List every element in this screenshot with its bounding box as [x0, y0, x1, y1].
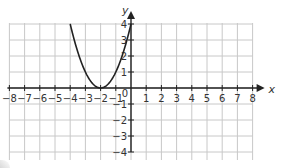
x-tick-label: −8 — [2, 93, 17, 104]
axes — [7, 11, 264, 152]
y-tick-label: 4 — [121, 19, 127, 30]
parabola-chart: −8−7−6−5−4−3−2−1123456784321−1−2−3−4 x y… — [0, 0, 281, 168]
y-axis-label: y — [121, 4, 129, 17]
x-tick-label: −7 — [17, 93, 32, 104]
x-tick-label: 2 — [158, 93, 164, 104]
x-tick-label: 3 — [173, 93, 179, 104]
y-tick-label: −3 — [112, 131, 127, 142]
x-tick-label: −4 — [63, 93, 78, 104]
y-tick-label: −2 — [112, 115, 127, 126]
x-tick-label: 5 — [204, 93, 210, 104]
y-tick-label: 1 — [121, 67, 127, 78]
y-tick-label: −4 — [112, 147, 127, 158]
x-tick-label: −6 — [32, 93, 47, 104]
x-tick-label: 4 — [189, 93, 195, 104]
x-tick-label: −3 — [78, 93, 93, 104]
x-tick-label: 6 — [219, 93, 225, 104]
origin-label: 0 — [122, 88, 128, 99]
x-axis-label: x — [268, 83, 276, 96]
x-axis-arrow-icon — [257, 84, 265, 92]
y-tick-label: −1 — [112, 99, 127, 110]
x-tick-label: 8 — [249, 93, 255, 104]
x-tick-label: −5 — [48, 93, 63, 104]
x-tick-label: 1 — [143, 93, 149, 104]
x-tick-label: −2 — [93, 93, 108, 104]
x-tick-label: 7 — [234, 93, 240, 104]
